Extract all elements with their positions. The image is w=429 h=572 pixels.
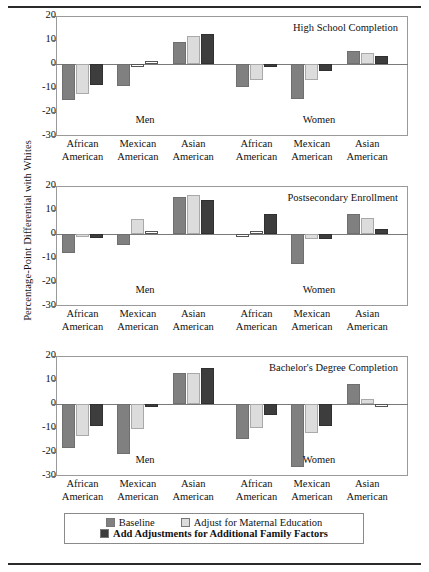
bar — [173, 373, 186, 404]
bar — [201, 368, 214, 404]
legend-label-family-factors: Add Adjustments for Additional Family Fa… — [113, 528, 328, 539]
bar — [375, 229, 388, 234]
bar — [319, 404, 332, 426]
bar — [62, 234, 75, 253]
bar — [187, 195, 200, 234]
y-tick-label: -10 — [6, 82, 56, 93]
group-label-men: Men — [123, 114, 167, 125]
x-tick-label-line2: American — [159, 321, 227, 334]
x-tick-label-line1: Asian — [333, 478, 401, 491]
bar — [236, 64, 249, 87]
x-axis-categories: AfricanAmericanMexicanAmericanAsianAmeri… — [56, 478, 408, 508]
group-label-men: Men — [123, 284, 167, 295]
x-tick-label-line2: American — [159, 491, 227, 504]
x-tick-label-line1: Asian — [159, 138, 227, 151]
legend-row-1: Baseline Adjust for Maternal Education — [71, 517, 357, 528]
y-axis-ticks: 20100-10-20-30 — [0, 186, 56, 306]
bar — [90, 64, 103, 85]
bar — [76, 64, 89, 94]
x-tick-label: AsianAmerican — [333, 138, 401, 163]
bar — [264, 64, 277, 67]
x-tick-label-line2: American — [333, 491, 401, 504]
plot-frame — [56, 356, 408, 476]
bar — [305, 64, 318, 80]
bar — [131, 219, 144, 234]
y-tick-label: 20 — [6, 10, 56, 21]
y-tick-label: 0 — [6, 398, 56, 409]
zero-baseline — [56, 234, 408, 235]
panel-title: High School Completion — [293, 22, 398, 33]
bar — [319, 64, 332, 71]
y-tick-label: 20 — [6, 180, 56, 191]
bar — [319, 234, 332, 239]
bar — [201, 200, 214, 234]
plot-area-1: Postsecondary EnrollmentMenWomen — [56, 186, 408, 306]
bar — [90, 404, 103, 426]
x-tick-label-line2: American — [333, 151, 401, 164]
bar — [90, 234, 103, 238]
bar — [187, 36, 200, 64]
x-tick-label-line1: Asian — [333, 308, 401, 321]
bar — [361, 218, 374, 234]
bar — [117, 404, 130, 454]
bar — [145, 231, 158, 234]
group-label-men: Men — [123, 454, 167, 465]
legend-swatch-family-factors — [100, 529, 109, 538]
bar — [173, 42, 186, 64]
bar — [375, 404, 388, 407]
x-tick-label-line2: American — [159, 151, 227, 164]
plot-area-0: High School CompletionMenWomen — [56, 16, 408, 136]
y-tick-label: -20 — [6, 446, 56, 457]
top-rule — [8, 6, 421, 8]
bar — [76, 404, 89, 436]
bar — [62, 404, 75, 448]
bar — [250, 404, 263, 428]
x-tick-label: AsianAmerican — [333, 308, 401, 333]
x-axis-categories: AfricanAmericanMexicanAmericanAsianAmeri… — [56, 138, 408, 168]
chart-legend: Baseline Adjust for Maternal Education A… — [64, 513, 364, 544]
bar — [145, 404, 158, 407]
x-tick-label: AsianAmerican — [159, 138, 227, 163]
bar — [347, 51, 360, 64]
y-tick-label: 20 — [6, 350, 56, 361]
bar — [305, 234, 318, 239]
panel-title: Bachelor's Degree Completion — [269, 362, 398, 373]
x-tick-label: AsianAmerican — [159, 478, 227, 503]
x-tick-label-line1: Asian — [159, 308, 227, 321]
x-tick-label-line1: Asian — [159, 478, 227, 491]
legend-swatch-maternal-education — [181, 518, 190, 527]
y-tick-label: 10 — [6, 34, 56, 45]
y-tick-mark — [52, 306, 56, 307]
legend-label-maternal-education: Adjust for Maternal Education — [194, 517, 323, 528]
x-axis-categories: AfricanAmericanMexicanAmericanAsianAmeri… — [56, 308, 408, 338]
bar — [131, 64, 144, 67]
y-tick-mark — [52, 476, 56, 477]
y-tick-label: 0 — [6, 228, 56, 239]
bar — [131, 404, 144, 429]
legend-swatch-baseline — [106, 518, 115, 527]
y-tick-label: 10 — [6, 204, 56, 215]
bar — [76, 234, 89, 237]
y-axis-ticks: 20100-10-20-30 — [0, 16, 56, 136]
group-label-women: Women — [297, 284, 341, 295]
x-tick-label-line1: Asian — [333, 138, 401, 151]
bar — [117, 234, 130, 245]
bar — [187, 373, 200, 404]
bar — [264, 404, 277, 415]
x-tick-label: AsianAmerican — [333, 478, 401, 503]
legend-row-2: Add Adjustments for Additional Family Fa… — [71, 528, 357, 539]
panel-title: Postsecondary Enrollment — [287, 192, 398, 203]
bar — [291, 64, 304, 99]
bottom-rule — [8, 563, 421, 565]
y-tick-label: 10 — [6, 374, 56, 385]
y-axis-ticks: 20100-10-20-30 — [0, 356, 56, 476]
bar — [305, 404, 318, 433]
group-label-women: Women — [297, 114, 341, 125]
legend-item-maternal-education: Adjust for Maternal Education — [181, 517, 323, 528]
bar — [117, 64, 130, 86]
plot-area-2: Bachelor's Degree CompletionMenWomen — [56, 356, 408, 476]
bar — [291, 234, 304, 264]
bar — [62, 64, 75, 100]
bar — [264, 214, 277, 234]
bar — [250, 64, 263, 80]
